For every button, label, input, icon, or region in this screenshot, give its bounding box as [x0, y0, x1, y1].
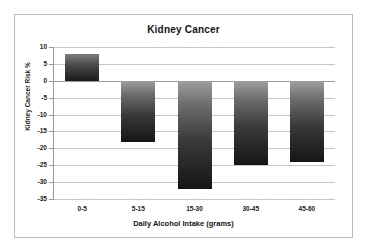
y-axis-tick-label: 0	[21, 77, 47, 84]
y-axis-tick	[49, 47, 53, 48]
y-axis-tick-label: -30	[21, 178, 47, 185]
y-axis-tick	[49, 131, 53, 132]
bar[interactable]	[290, 81, 324, 162]
bar[interactable]	[178, 81, 212, 189]
y-axis-tick	[49, 64, 53, 65]
x-axis-title: Daily Alcohol Intake (grams)	[15, 219, 352, 228]
y-axis-tick	[49, 81, 53, 82]
y-axis-tick-label: -5	[21, 94, 47, 101]
plot-area	[54, 47, 335, 199]
x-axis-tick-label: 0-5	[52, 205, 112, 212]
bar[interactable]	[234, 81, 268, 165]
x-axis-tick-label: 15-30	[165, 205, 225, 212]
y-axis-tick	[49, 199, 53, 200]
gridline	[54, 47, 335, 48]
y-axis-tick-label: -35	[21, 195, 47, 202]
y-axis-tick-labels: 1050-5-10-15-20-25-30-35	[15, 47, 47, 200]
y-axis-tick	[49, 115, 53, 116]
y-axis-tick-label: -20	[21, 144, 47, 151]
x-axis-tick-label: 5-15	[108, 205, 168, 212]
y-axis-tick	[49, 98, 53, 99]
chart-frame: Kidney Cancer Kidney Cancer Risk % 1050-…	[14, 14, 353, 238]
y-axis-tick	[49, 182, 53, 183]
y-axis-tick-label: -10	[21, 111, 47, 118]
y-axis-tick-label: 10	[21, 43, 47, 50]
x-axis-tick-label: 45-60	[277, 205, 337, 212]
x-axis-tick-label: 30-45	[221, 205, 281, 212]
y-axis-tick-label: 5	[21, 60, 47, 67]
y-axis-tick	[49, 148, 53, 149]
bar[interactable]	[65, 54, 99, 81]
y-axis-tick-label: -15	[21, 127, 47, 134]
y-axis-tick-label: -25	[21, 161, 47, 168]
chart-title: Kidney Cancer	[15, 24, 352, 35]
bar[interactable]	[121, 81, 155, 142]
y-axis-tick	[49, 165, 53, 166]
gridline	[54, 199, 335, 200]
